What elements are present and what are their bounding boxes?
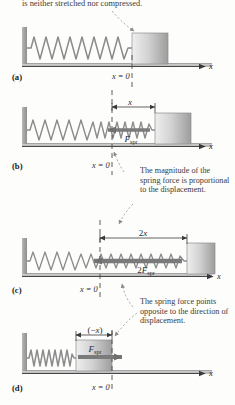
- origin-label-c: x = 0: [80, 285, 98, 294]
- figure-artwork: x Fspr 2x 2Fspr (−x) Fspr x x x x: [0, 0, 235, 405]
- panel-c-artwork: [22, 220, 215, 300]
- origin-label-d: x = 0: [92, 383, 110, 392]
- annotation-pointer-d-down: [115, 313, 137, 336]
- label-force-c: 2Fspr: [137, 265, 155, 276]
- annotation-pointer-b-up: [114, 152, 124, 172]
- block-c: [187, 243, 215, 274]
- panel-label-c: (c): [12, 285, 22, 295]
- annotation-magnitude-proportional: The magnitude of the spring force is pro…: [140, 166, 232, 195]
- panel-d-artwork: [22, 330, 212, 392]
- spring-d: [27, 350, 76, 366]
- label-displacement-d: (−x): [87, 325, 102, 335]
- wall-d: [22, 333, 27, 371]
- caption-pointer-a: [112, 11, 134, 31]
- figure-top-caption: is neither stretched nor compressed.: [22, 0, 222, 9]
- panel-label-b: (b): [12, 161, 23, 171]
- origin-label-a: x = 0: [112, 72, 130, 81]
- block-a: [132, 33, 168, 64]
- label-displacement-b: x: [127, 97, 132, 107]
- annotation-pointer-d-up: [122, 284, 133, 307]
- axis-label-c: x: [216, 271, 221, 281]
- panel-b-artwork: [22, 90, 212, 175]
- label-displacement-c: 2x: [139, 228, 148, 238]
- panel-label-d: (d): [12, 383, 23, 393]
- panel-label-a: (a): [12, 72, 22, 82]
- spring-force-figure: is neither stretched nor compressed.: [0, 0, 235, 405]
- wall-a: [22, 27, 27, 64]
- origin-label-b: x = 0: [92, 161, 110, 170]
- axis-label-a: x: [208, 61, 213, 71]
- label-force-b: Fspr: [123, 134, 137, 145]
- block-b: [155, 113, 191, 144]
- axis-label-d: x: [208, 368, 213, 378]
- annotation-force-opposite-direction: The spring force points opposite to the …: [140, 297, 232, 326]
- wall-b: [22, 107, 27, 144]
- annotation-pointer-b-down: [119, 204, 133, 224]
- axis-label-b: x: [208, 141, 213, 151]
- wall-c: [22, 238, 27, 274]
- spring-a: [27, 37, 132, 59]
